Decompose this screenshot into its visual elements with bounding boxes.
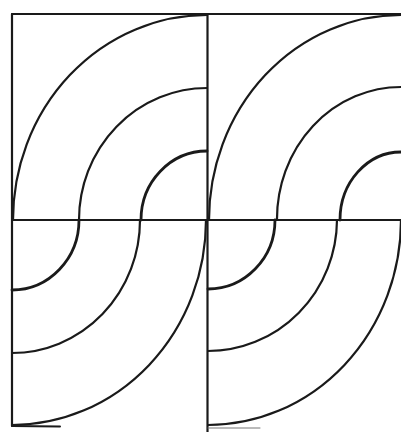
bottom-border-fragment: [12, 426, 60, 427]
left-tile-top-arcs: [13, 15, 207, 220]
inner-arc: [208, 220, 275, 289]
s-curve-tile-pattern: [0, 0, 401, 432]
middle-arc: [277, 87, 401, 220]
right-tile-top-arcs: [209, 15, 401, 220]
inner-arc: [340, 152, 401, 220]
inner-arc: [12, 220, 79, 290]
outer-arc: [209, 15, 401, 220]
inner-arc: [141, 151, 207, 220]
outer-arc: [208, 220, 401, 425]
outer-arc: [13, 15, 207, 220]
right-tile-bottom-arcs: [208, 220, 401, 425]
left-tile-bottom-arcs: [12, 220, 206, 425]
pattern-drawing: [0, 0, 401, 432]
outer-arc: [12, 220, 206, 425]
